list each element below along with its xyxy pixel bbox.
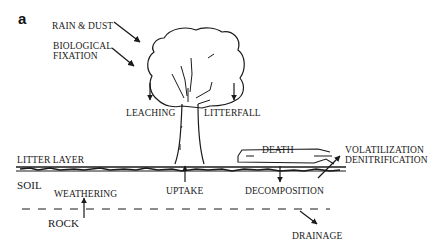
soil-label: SOIL	[17, 180, 42, 190]
panel-label: a	[18, 10, 26, 27]
biological-fixation-label-2: FIXATION	[53, 51, 98, 61]
tree-branches	[172, 54, 214, 104]
rain-dust-label: RAIN & DUST	[52, 21, 113, 31]
denitrification-label: DENITRIFICATION	[345, 155, 428, 165]
litter-layer-label: LITTER LAYER	[17, 155, 84, 165]
weathering-label: WEATHERING	[54, 189, 117, 199]
leaching-label: LEACHING	[126, 108, 175, 118]
drainage-arrow	[300, 211, 317, 224]
uptake-label: UPTAKE	[166, 186, 203, 196]
biological-fixation-label-1: BIOLOGICAL	[53, 41, 112, 51]
nutrient-cycle-diagram: a RAIN & DUST BIOLOGICAL FIXATION LEACHI…	[0, 0, 436, 250]
volatilization-label: VOLATILIZATION	[345, 145, 424, 155]
bio-fixation-arrow	[112, 48, 134, 66]
drainage-label: DRAINAGE	[292, 231, 342, 241]
tree-trunk	[175, 104, 204, 164]
death-label: DEATH	[262, 145, 294, 155]
rock-label: ROCK	[48, 218, 79, 228]
litterfall-label: LITTERFALL	[204, 108, 261, 118]
diagram-drawing	[0, 0, 436, 250]
decomposition-label: DECOMPOSITION	[245, 186, 324, 196]
litter-layer-line	[16, 167, 346, 171]
tree-crown	[148, 28, 245, 108]
rain-dust-arrow	[114, 22, 140, 42]
